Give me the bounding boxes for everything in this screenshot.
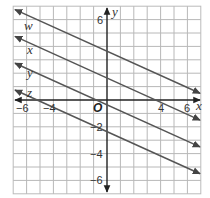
origin-label: O [93, 101, 103, 115]
label-z: z [26, 85, 32, 100]
tick-x-neg6: −6 [16, 102, 29, 114]
graph-svg: w x y z x y O −6 −4 4 6 6 −2 −4 −6 [0, 0, 210, 198]
tick-x-4: 4 [158, 102, 164, 114]
tick-y-neg6: −6 [90, 174, 103, 186]
label-y: y [25, 65, 33, 80]
coordinate-plane: w x y z x y O −6 −4 4 6 6 −2 −4 −6 [0, 0, 210, 198]
y-axis-label: y [110, 4, 118, 19]
tick-y-neg4: −4 [90, 148, 103, 160]
x-axis-label: x [195, 98, 202, 113]
tick-x-neg4: −4 [43, 102, 56, 114]
tick-y-6: 6 [97, 14, 103, 26]
label-w: w [24, 18, 33, 33]
tick-x-6: 6 [184, 102, 190, 114]
tick-y-neg2: −2 [90, 121, 103, 133]
label-x: x [26, 42, 33, 57]
